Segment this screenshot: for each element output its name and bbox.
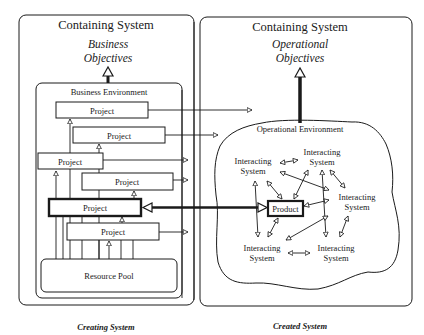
svg-text:System: System	[249, 253, 274, 263]
project-label: Project	[101, 227, 126, 237]
svg-text:System: System	[240, 166, 265, 176]
interacting-system-1[interactable]: Interacting System	[235, 156, 273, 176]
interacting-system-4[interactable]: Interacting System	[244, 243, 282, 263]
svg-text:Interacting: Interacting	[339, 192, 377, 202]
system-diagram: Containing System Business Objectives Bu…	[0, 0, 424, 335]
svg-text:Interacting: Interacting	[244, 243, 282, 253]
svg-text:System: System	[309, 157, 334, 167]
created-system-caption: Created System	[273, 321, 327, 331]
interacting-system-5[interactable]: Interacting System	[318, 243, 356, 263]
arrow-up-icon	[295, 68, 305, 77]
operational-environment-label: Operational Environment	[257, 124, 344, 134]
arrow-left-icon	[143, 203, 152, 212]
svg-text:System: System	[344, 202, 369, 212]
project-5-highlighted[interactable]: Project	[49, 199, 141, 216]
product-box[interactable]: Product	[268, 201, 303, 216]
business-objectives-line1: Business	[88, 38, 129, 50]
project-label: Project	[115, 177, 140, 187]
svg-text:Interacting: Interacting	[304, 147, 342, 157]
project-6[interactable]: Project	[67, 223, 159, 240]
svg-text:Interacting: Interacting	[318, 243, 356, 253]
project-4[interactable]: Project	[82, 173, 173, 190]
business-environment-label: Business Environment	[71, 87, 148, 97]
operational-environment-cloud	[215, 120, 399, 289]
resource-pool-label: Resource Pool	[84, 271, 134, 281]
creating-system-panel: Containing System Business Objectives Bu…	[19, 15, 194, 332]
operational-objectives-line1: Operational	[272, 38, 328, 51]
project-label: Project	[107, 131, 132, 141]
project-3[interactable]: Project	[38, 153, 103, 169]
containing-system-title-left: Containing System	[58, 18, 154, 32]
svg-text:Interacting: Interacting	[235, 156, 273, 166]
product-label: Product	[272, 204, 299, 214]
created-system-panel: Containing System Operational Objectives…	[200, 17, 412, 306]
containing-system-title-right: Containing System	[252, 20, 348, 34]
business-objectives-line2: Objectives	[84, 52, 133, 65]
creating-system-caption: Creating System	[77, 322, 135, 332]
interacting-system-3[interactable]: Interacting System	[339, 192, 377, 212]
operational-objectives-line2: Objectives	[276, 52, 325, 65]
resource-pool[interactable]: Resource Pool	[41, 259, 177, 292]
project-2[interactable]: Project	[73, 127, 165, 143]
arrow-right-icon	[258, 203, 267, 212]
boundary-lines	[182, 22, 194, 300]
project-1[interactable]: Project	[56, 102, 148, 118]
project-label: Project	[58, 157, 83, 167]
interacting-system-2[interactable]: Interacting System	[304, 147, 342, 167]
project-label: Project	[83, 203, 108, 213]
svg-text:System: System	[323, 253, 348, 263]
arrow-up-icon	[103, 67, 113, 76]
project-label: Project	[90, 106, 115, 116]
